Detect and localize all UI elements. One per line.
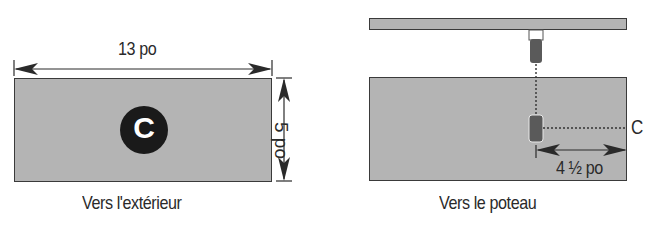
- right-hardware-lines: [0, 0, 648, 227]
- hinge-upper-icon: [530, 39, 542, 63]
- caption-post: Vers le poteau: [439, 192, 536, 214]
- offset-label: 4 ½ po: [556, 157, 603, 179]
- center-marker-label: C: [631, 116, 643, 139]
- hinge-lower-icon: [529, 115, 543, 142]
